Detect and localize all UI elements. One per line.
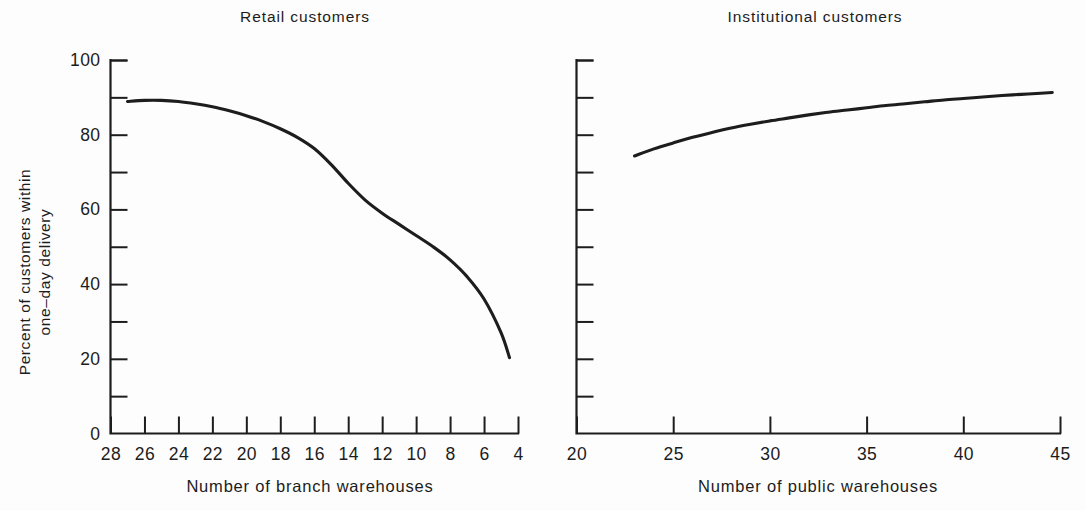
x-tick-label: 10 [406, 444, 426, 464]
figure-container: Retail customers Percent of customers wi… [0, 0, 1086, 511]
chart-title-retail: Retail customers [240, 8, 370, 25]
x-tick-label: 4 [513, 444, 523, 464]
axis-spine-retail [111, 60, 519, 434]
x-tick-label: 30 [760, 444, 780, 464]
x-tick-label: 8 [446, 444, 456, 464]
x-ticks-retail [111, 417, 519, 434]
x-tick-label: 40 [954, 444, 974, 464]
y-axis-title-line2: one–day delivery [36, 209, 53, 336]
x-tick-label: 45 [1050, 444, 1070, 464]
charts-svg: Retail customers Percent of customers wi… [0, 0, 1086, 511]
panel-institutional-customers: Institutional customers 202530354045 Num… [567, 8, 1071, 495]
x-tick-label: 28 [101, 444, 121, 464]
x-tick-label: 25 [664, 444, 684, 464]
x-tick-label: 12 [373, 444, 393, 464]
x-axis-title-institutional: Number of public warehouses [698, 477, 938, 495]
x-tick-label: 16 [305, 444, 325, 464]
y-tick-labels-retail: 020406080100 [70, 50, 100, 444]
x-tick-label: 6 [479, 444, 489, 464]
y-ticks-retail [111, 61, 128, 397]
y-ticks-institutional [577, 61, 594, 397]
x-tick-label: 22 [203, 444, 223, 464]
x-tick-label: 26 [135, 444, 155, 464]
y-tick-label: 0 [90, 424, 100, 444]
x-ticks-institutional [577, 417, 1061, 434]
x-tick-labels-retail: 28262422201816141210864 [101, 444, 524, 464]
y-tick-label: 80 [80, 125, 100, 145]
y-axis-title-retail: Percent of customers within one–day deli… [16, 169, 53, 376]
x-tick-label: 24 [169, 444, 189, 464]
data-curve-institutional [635, 92, 1053, 156]
y-tick-label: 40 [80, 274, 100, 294]
y-axis-title-line1: Percent of customers within [16, 169, 33, 376]
x-tick-label: 18 [271, 444, 291, 464]
x-tick-label: 14 [339, 444, 359, 464]
data-curve-retail [127, 100, 509, 357]
y-tick-label: 100 [70, 50, 100, 70]
y-tick-label: 20 [80, 349, 100, 369]
x-tick-label: 20 [567, 444, 587, 464]
chart-title-institutional: Institutional customers [728, 8, 903, 25]
x-axis-title-retail: Number of branch warehouses [186, 477, 433, 495]
panel-retail-customers: Retail customers Percent of customers wi… [16, 8, 524, 495]
x-tick-labels-institutional: 202530354045 [567, 444, 1071, 464]
x-tick-label: 35 [857, 444, 877, 464]
x-tick-label: 20 [237, 444, 257, 464]
y-tick-label: 60 [80, 199, 100, 219]
axis-spine-institutional [577, 60, 1061, 434]
